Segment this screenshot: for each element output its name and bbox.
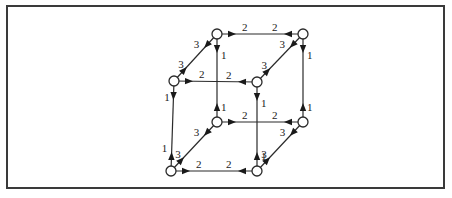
arrow-head-icon [284,31,292,37]
edge-weight-label: 2 [272,109,278,121]
edge-weight-label: 3 [194,38,200,50]
graph-node-bbr [298,117,308,127]
edge-weight-label: 2 [242,21,248,33]
edge-weight-label: 2 [226,69,232,81]
arrow-head-icon [170,92,176,100]
weight-labels-layer: 222222221111111133333333 [162,21,313,170]
graph-node-tbl [212,29,222,39]
graph-node-bfl [166,166,176,176]
graph-node-tbr [298,29,308,39]
edge-weight-label: 3 [262,59,268,71]
arrow-head-icon [214,45,220,53]
arrow-head-icon [300,45,306,53]
edge-weight-label: 3 [175,148,181,160]
edge-weight-label: 1 [162,142,168,154]
edge-weight-label: 2 [196,158,202,170]
edge-weight-label: 3 [178,58,184,70]
arrow-head-icon [185,78,193,84]
edge-weight-label: 1 [221,49,227,61]
graph-node-tfr [252,77,262,87]
arrow-head-icon [228,31,236,37]
edge-weight-label: 3 [280,126,286,138]
arrow-head-icon [238,168,246,174]
arrow-head-icon [182,168,190,174]
edges-layer [171,34,303,171]
graph-node-tfl [169,76,179,86]
arrow-head-icon [300,103,306,111]
arrow-head-icon [168,152,174,160]
edge-weight-label: 1 [261,97,267,109]
edge-weight-label: 2 [272,21,278,33]
edge-weight-label: 2 [199,68,205,80]
edge-weight-label: 1 [307,101,313,113]
edge-weight-label: 3 [194,126,200,138]
edge-weight-label: 1 [164,91,170,103]
graph-node-bbl [212,117,222,127]
edge-weight-label: 3 [261,148,267,160]
edge-weight-label: 1 [307,49,313,61]
edge-weight-label: 3 [279,38,285,50]
arrow-head-icon [228,119,236,125]
arrow-head-icon [214,103,220,111]
arrow-head-icon [238,79,246,85]
edge-weight-label: 1 [221,101,227,113]
edge-weight-label: 2 [226,158,232,170]
arrow-head-icon [284,119,292,125]
arrow-head-icon [254,152,260,160]
cube-graph-diagram: 222222221111111133333333 [0,0,452,198]
edge-weight-label: 2 [242,109,248,121]
arrow-head-icon [254,93,260,101]
graph-node-bfr [252,166,262,176]
